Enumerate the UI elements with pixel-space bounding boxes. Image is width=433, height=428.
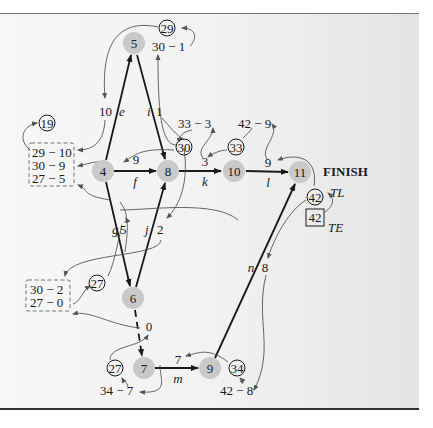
- svg-text:27: 27: [91, 276, 105, 291]
- latest-time-node-11: 42: [307, 189, 323, 205]
- calc-node-7: 34 − 7: [100, 383, 134, 398]
- latest-time-node-9: 34: [229, 360, 245, 376]
- svg-text:34: 34: [231, 361, 245, 376]
- latest-time-node-5: 29: [159, 20, 175, 36]
- svg-text:29: 29: [161, 21, 174, 36]
- calc-node-10: 42 − 9: [238, 116, 271, 131]
- activity-label-g: g: [112, 222, 119, 237]
- node-7: 7: [133, 357, 155, 379]
- latest-time-node-10: 33: [228, 139, 244, 155]
- latest-time-node-8: 30: [176, 139, 192, 155]
- activity-edges: [106, 55, 295, 368]
- edge-dummy: [135, 310, 142, 356]
- svg-text:42: 42: [309, 210, 322, 225]
- svg-text:9: 9: [207, 361, 214, 376]
- node-5: 5: [123, 32, 145, 54]
- svg-text:27: 27: [109, 361, 123, 376]
- calc-node-5: 30 − 1: [152, 39, 185, 54]
- latest-time-node-4: 19: [39, 115, 55, 131]
- activity-label-l: l: [266, 175, 270, 190]
- annotation-arrows: [23, 25, 333, 392]
- node-8: 8: [157, 160, 179, 182]
- duration-m: 7: [175, 352, 182, 367]
- edge-n: [215, 184, 295, 358]
- duration-j: 2: [157, 222, 164, 237]
- edge-l: [246, 171, 288, 172]
- svg-text:4: 4: [100, 164, 107, 179]
- calc-node-4-line-3: 27 − 5: [32, 171, 65, 186]
- earliest-time-node-11: 42: [306, 209, 324, 226]
- node-6: 6: [122, 287, 144, 309]
- finish-label: FINISH: [323, 164, 368, 179]
- latest-time-node-7: 27: [107, 360, 123, 376]
- svg-text:11: 11: [294, 165, 307, 180]
- node-11: 11: [289, 161, 311, 183]
- node-9: 9: [199, 357, 221, 379]
- duration-e: 10: [99, 104, 112, 119]
- activity-label-k: k: [202, 174, 208, 189]
- activity-label-f: f: [133, 174, 139, 189]
- calc-node-9: 42 − 8: [220, 383, 253, 398]
- pert-network: 5 4 8 10 11 6 7 9 10 e i 1 9 f 3 k 9 l g…: [0, 0, 433, 428]
- activity-label-e: e: [119, 104, 125, 119]
- activity-label-m: m: [173, 371, 182, 386]
- duration-f: 9: [133, 152, 140, 167]
- duration-i: 1: [156, 104, 163, 119]
- node-4: 4: [92, 160, 114, 182]
- svg-text:42: 42: [309, 190, 322, 205]
- svg-text:30: 30: [178, 140, 191, 155]
- duration-l: 9: [265, 155, 272, 170]
- duration-k: 3: [202, 154, 209, 169]
- svg-text:10: 10: [228, 164, 241, 179]
- svg-text:5: 5: [131, 36, 138, 51]
- duration-n: 8: [262, 260, 269, 275]
- latest-time-node-6: 27: [89, 275, 105, 291]
- tl-label: TL: [330, 185, 344, 200]
- duration-dummy: 0: [146, 319, 153, 334]
- svg-text:6: 6: [130, 291, 137, 306]
- node-10: 10: [223, 160, 245, 182]
- svg-text:19: 19: [41, 116, 54, 131]
- svg-text:8: 8: [165, 164, 172, 179]
- activity-label-i: i: [147, 104, 151, 119]
- calc-node-8: 33 − 3: [178, 116, 211, 131]
- activity-label-j: j: [143, 222, 149, 237]
- activity-label-n: n: [248, 260, 255, 275]
- te-label: TE: [328, 220, 343, 235]
- calc-node-6-line-2: 27 − 0: [30, 295, 63, 310]
- svg-text:7: 7: [141, 361, 148, 376]
- duration-g: 5: [120, 222, 127, 237]
- svg-text:33: 33: [230, 140, 243, 155]
